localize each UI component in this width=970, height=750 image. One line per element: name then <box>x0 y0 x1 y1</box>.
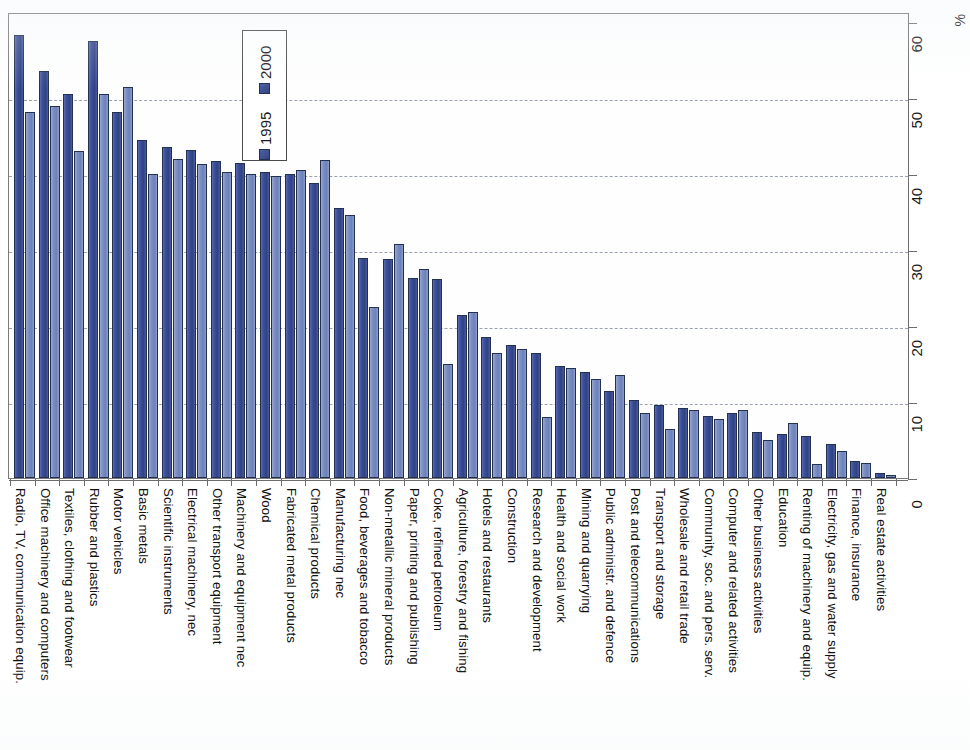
category-label: Wholesale and retail trade <box>678 488 691 644</box>
category-label: Non-metallic mineral products <box>383 488 396 665</box>
category-tick <box>477 479 478 486</box>
bar-1995 <box>457 315 467 478</box>
category-tick <box>502 479 503 486</box>
bar-2000 <box>763 440 773 478</box>
bar-group <box>580 14 602 478</box>
bar-group <box>88 14 110 478</box>
bar-1995 <box>260 172 270 478</box>
category-tick <box>256 479 257 486</box>
bar-1995 <box>383 259 393 478</box>
bar-2000 <box>419 269 429 478</box>
category-tick <box>35 479 36 486</box>
bar-group <box>629 14 651 478</box>
bar-1995 <box>162 147 172 478</box>
category-tick <box>527 479 528 486</box>
bar-group <box>801 14 823 478</box>
category-tick <box>281 479 282 486</box>
category-label: Other transport equipment <box>211 488 224 644</box>
bar-2000 <box>738 410 748 478</box>
category-tick <box>330 479 331 486</box>
bar-group <box>137 14 159 478</box>
bar-2000 <box>123 87 133 478</box>
category-tick <box>379 479 380 486</box>
category-label: Rubber and plastics <box>88 488 101 606</box>
category-tick <box>354 479 355 486</box>
value-tick-label: 20 <box>908 315 925 357</box>
category-tick <box>650 479 651 486</box>
category-label: Construction <box>506 488 519 563</box>
bar-group <box>39 14 61 478</box>
bar-2000 <box>615 375 625 478</box>
category-label: Hotels and restaurants <box>481 488 494 623</box>
bar-2000 <box>640 413 650 478</box>
category-label: Public administr. and defence <box>604 488 617 663</box>
plot-inner <box>9 14 908 478</box>
bar-group <box>826 14 848 478</box>
value-tick-label: 60 <box>908 11 925 53</box>
bar-2000 <box>296 170 306 478</box>
bar-series-container <box>9 14 908 478</box>
bar-1995 <box>875 473 885 478</box>
bar-group <box>531 14 553 478</box>
category-tick <box>84 479 85 486</box>
bar-1995 <box>235 163 245 478</box>
category-tick <box>428 479 429 486</box>
category-label: Real estate activities <box>875 488 888 611</box>
category-tick <box>625 479 626 486</box>
bar-2000 <box>861 463 871 478</box>
bar-2000 <box>591 379 601 478</box>
category-tick <box>896 479 897 486</box>
bar-group <box>850 14 872 478</box>
category-tick <box>846 479 847 486</box>
bar-group <box>506 14 528 478</box>
category-label: Renting of machinery and equip. <box>801 488 814 681</box>
category-tick <box>59 479 60 486</box>
category-tick <box>822 479 823 486</box>
bar-1995 <box>186 150 196 478</box>
category-label: Community, soc. and pers. serv. <box>703 488 716 678</box>
bar-1995 <box>531 353 541 478</box>
bar-chart: 0102030405060 % Radio, TV, communication… <box>0 0 970 750</box>
category-label: Education <box>776 488 789 548</box>
category-tick <box>133 479 134 486</box>
value-axis-unit-label: % <box>952 14 968 26</box>
bar-group <box>14 14 36 478</box>
bar-2000 <box>394 244 404 478</box>
bar-1995 <box>604 391 614 478</box>
bar-2000 <box>320 160 330 478</box>
value-tick-label: 50 <box>908 87 925 129</box>
bar-group <box>334 14 356 478</box>
bar-group <box>309 14 331 478</box>
bar-2000 <box>99 94 109 478</box>
bar-1995 <box>580 372 590 478</box>
bar-1995 <box>334 208 344 478</box>
bar-1995 <box>14 35 24 478</box>
bar-group <box>752 14 774 478</box>
bar-group <box>727 14 749 478</box>
category-tick <box>674 479 675 486</box>
bar-2000 <box>886 475 896 478</box>
category-label: Motor vehicles <box>112 488 125 574</box>
category-label: Food, beverages and tobacco <box>358 488 371 665</box>
bar-1995 <box>88 41 98 478</box>
category-label: Wood <box>260 488 273 523</box>
bar-2000 <box>197 164 207 478</box>
bar-2000 <box>468 312 478 478</box>
bar-2000 <box>25 112 35 478</box>
category-label: Manufacturing nec <box>334 488 347 598</box>
category-tick <box>108 479 109 486</box>
bar-group <box>63 14 85 478</box>
category-tick <box>182 479 183 486</box>
category-label: Chemical products <box>309 488 322 599</box>
bar-1995 <box>703 416 713 478</box>
bar-2000 <box>665 429 675 478</box>
category-tick <box>231 479 232 486</box>
category-tick <box>10 479 11 486</box>
bar-2000 <box>345 215 355 478</box>
bar-group <box>211 14 233 478</box>
category-tick <box>158 479 159 486</box>
bar-2000 <box>246 174 256 478</box>
bar-group <box>481 14 503 478</box>
category-label: Post and telecommunications <box>629 488 642 663</box>
category-label: Coke, refined petroleum <box>432 488 445 631</box>
